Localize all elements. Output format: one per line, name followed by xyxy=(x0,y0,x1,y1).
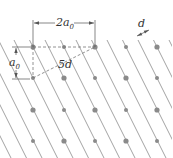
width-label: 2a0 xyxy=(56,17,74,31)
arrowhead-up-icon xyxy=(14,48,17,53)
lattice-plane-line xyxy=(0,35,12,158)
lattice-point xyxy=(62,108,66,112)
lattice-plane-line xyxy=(58,35,121,158)
lattice-point xyxy=(154,44,159,49)
lattice-svg xyxy=(0,0,172,158)
lattice-point xyxy=(30,107,35,112)
lattice-point xyxy=(31,139,35,143)
lattice-plane-line xyxy=(151,35,172,158)
arrowhead-d-right-icon xyxy=(144,30,149,34)
lattice-point xyxy=(93,76,97,80)
lattice-points xyxy=(30,44,159,143)
arrowhead-left-icon xyxy=(34,21,39,24)
spacing-label: d xyxy=(138,18,145,29)
lattice-plane-line xyxy=(167,35,173,158)
lattice-point xyxy=(123,75,128,80)
lattice-point xyxy=(92,107,97,112)
lattice-plane-line xyxy=(0,35,59,158)
lattice-point xyxy=(93,139,97,143)
lattice-point xyxy=(154,107,159,112)
lattice-plane-line xyxy=(27,35,90,158)
arrowhead-d-left-icon xyxy=(137,33,142,37)
lattice-diagram: 2a0 a0 5d d xyxy=(0,0,172,158)
diagonal-label: 5d xyxy=(58,59,72,70)
lattice-point xyxy=(155,139,159,143)
lattice-point xyxy=(61,75,66,80)
lattice-plane-line xyxy=(89,35,152,158)
lattice-point xyxy=(61,138,66,143)
lattice-point xyxy=(124,45,128,49)
height-label: a0 xyxy=(9,57,20,71)
arrowhead-right-icon xyxy=(89,21,94,24)
lattice-point xyxy=(123,138,128,143)
lattice-point xyxy=(155,76,159,80)
lattice-point xyxy=(124,108,128,112)
lattice-plane-line xyxy=(0,35,28,158)
lattice-planes xyxy=(0,35,172,158)
